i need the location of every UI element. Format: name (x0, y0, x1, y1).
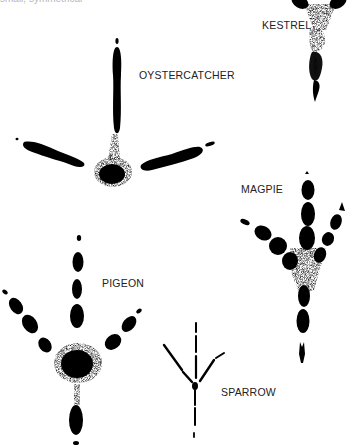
pigeon-footprint (1, 235, 142, 445)
label-sparrow: SPARROW (221, 386, 276, 398)
label-pigeon: PIGEON (102, 277, 144, 289)
label-oystercatcher: OYSTERCATCHER (139, 69, 235, 81)
magpie-footprint (239, 171, 345, 363)
footprints-illustration (0, 0, 357, 445)
kestrel-footprint (289, 0, 349, 102)
sparrow-footprint (164, 323, 224, 437)
label-kestrel: KESTREL (262, 19, 311, 31)
oystercatcher-footprint (16, 38, 216, 187)
label-magpie: MAGPIE (241, 183, 283, 195)
